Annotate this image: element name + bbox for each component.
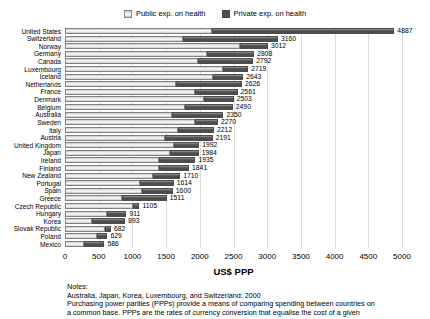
bar-value-label: 3012 — [271, 43, 286, 49]
public-bar-segment — [65, 127, 178, 133]
category-label: Slovak Republic — [0, 225, 61, 232]
bar-stack: 3012 — [65, 43, 286, 49]
bar-stack: 3160 — [65, 36, 296, 42]
category-label: Italy — [0, 127, 61, 134]
x-tick-label: 3000 — [258, 252, 276, 261]
bar-row: Iceland2643 — [0, 73, 430, 81]
private-bar-segment — [92, 218, 125, 224]
public-bar-segment — [65, 173, 153, 179]
private-bar-segment — [195, 119, 218, 125]
plot-area: United States4887Switzerland3160Norway30… — [0, 27, 430, 248]
private-bar-segment — [159, 157, 195, 163]
bar-value-label: 3160 — [281, 36, 296, 42]
public-bar-segment — [65, 218, 92, 224]
notes: Notes: Australia, Japan, Korea, Luxembou… — [67, 283, 427, 317]
category-label: Korea — [0, 218, 61, 225]
bar-row: Sweden2270 — [0, 118, 430, 126]
bar-stack: 2503 — [65, 96, 252, 102]
bar-value-label: 1511 — [170, 195, 185, 201]
category-label: Norway — [0, 43, 61, 50]
public-bar-segment — [65, 150, 170, 156]
public-bar-segment — [65, 180, 140, 186]
bar-row: Netherlands2626 — [0, 80, 430, 88]
bar-stack: 2626 — [65, 81, 260, 87]
category-label: Japan — [0, 149, 61, 156]
public-bar-segment — [65, 66, 223, 72]
category-label: Denmark — [0, 96, 61, 103]
public-bar-segment — [65, 43, 240, 49]
bar-stack: 1841 — [65, 165, 207, 171]
x-axis: 0500100015002000250030003500400045005000 — [0, 252, 430, 262]
category-label: Spain — [0, 187, 61, 194]
bar-stack: 1710 — [65, 173, 198, 179]
public-swatch-icon — [124, 10, 132, 18]
public-bar-segment — [65, 36, 183, 42]
bar-row: Korea893 — [0, 217, 430, 225]
public-bar-segment — [65, 195, 122, 201]
bar-stack: 586 — [65, 241, 119, 247]
public-bar-segment — [65, 58, 198, 64]
bar-value-label: 4887 — [397, 28, 412, 34]
category-label: France — [0, 88, 61, 95]
category-label: Canada — [0, 58, 61, 65]
legend-item-private: Private exp. on health — [222, 9, 307, 18]
notes-line: a common base. PPPs are the rates of cur… — [67, 309, 427, 318]
category-label: Iceland — [0, 73, 61, 80]
bar-row: Australia2350 — [0, 111, 430, 119]
private-bar-segment — [84, 241, 105, 247]
public-bar-segment — [65, 112, 172, 118]
public-bar-segment — [65, 28, 212, 34]
bar-value-label: 2503 — [237, 96, 252, 102]
bar-value-label: 893 — [128, 218, 139, 224]
public-bar-segment — [65, 104, 185, 110]
x-tick-label: 4000 — [326, 252, 344, 261]
bar-value-label: 2792 — [256, 58, 271, 64]
private-bar-segment — [107, 211, 127, 217]
category-label: Austria — [0, 134, 61, 141]
bar-stack: 1984 — [65, 150, 217, 156]
bar-stack: 2350 — [65, 112, 242, 118]
private-bar-segment — [213, 74, 244, 80]
bar-value-label: 1841 — [192, 165, 207, 171]
bar-row: Portugal1614 — [0, 179, 430, 187]
bar-row: Spain1600 — [0, 187, 430, 195]
bar-value-label: 2350 — [226, 112, 241, 118]
public-bar-segment — [65, 81, 176, 87]
bar-row: New Zealand1710 — [0, 172, 430, 180]
public-bar-segment — [65, 51, 207, 57]
bar-stack: 682 — [65, 226, 125, 232]
bar-stack: 1105 — [65, 203, 157, 209]
bar-value-label: 2212 — [217, 127, 232, 133]
legend: Public exp. on health Private exp. on he… — [0, 9, 430, 18]
x-tick-label: 1000 — [123, 252, 141, 261]
x-tick-label: 3500 — [292, 252, 310, 261]
bar-stack: 629 — [65, 233, 122, 239]
bar-value-label: 2490 — [236, 104, 251, 110]
bar-stack: 1614 — [65, 180, 192, 186]
private-bar-segment — [105, 226, 111, 232]
category-label: Finland — [0, 165, 61, 172]
category-label: United Kingdom — [0, 142, 61, 149]
public-bar-segment — [65, 89, 195, 95]
public-bar-segment — [65, 74, 213, 80]
private-bar-segment — [223, 66, 248, 72]
private-bar-segment — [204, 96, 234, 102]
category-label: United States — [0, 28, 61, 35]
bar-row: Italy2212 — [0, 126, 430, 134]
category-label: Ireland — [0, 157, 61, 164]
x-tick-label: 5000 — [393, 252, 411, 261]
legend-public-label: Public exp. on health — [136, 9, 206, 18]
category-label: Germany — [0, 50, 61, 57]
x-tick-label: 2000 — [191, 252, 209, 261]
category-label: Sweden — [0, 119, 61, 126]
bar-stack: 1992 — [65, 142, 217, 148]
bar-row: Mexico586 — [0, 240, 430, 248]
private-bar-segment — [195, 89, 238, 95]
bar-row: Belgium2490 — [0, 103, 430, 111]
category-label: Belgium — [0, 104, 61, 111]
legend-private-label: Private exp. on health — [234, 9, 307, 18]
x-tick-label: 1500 — [157, 252, 175, 261]
public-bar-segment — [65, 142, 174, 148]
private-bar-segment — [212, 28, 394, 34]
bar-stack: 1600 — [65, 188, 191, 194]
